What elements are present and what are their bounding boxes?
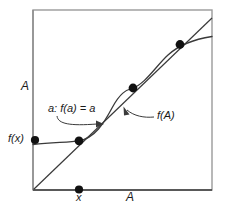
- f-of-A-curve: [33, 37, 212, 145]
- figure-container: A A x f(x) a: f(a) = a f(A): [0, 0, 230, 215]
- f-of-A-annotation-label: f(A): [157, 110, 175, 121]
- point-f-of-x: [31, 136, 39, 144]
- y-axis-label: A: [21, 80, 29, 92]
- point-fixed-middle: [129, 84, 138, 93]
- point-fixed-upper: [176, 40, 185, 49]
- x-point-label: x: [76, 192, 82, 203]
- diagram-canvas: [0, 0, 230, 215]
- f-of-A-leader-line: [127, 110, 154, 117]
- point-fixed-lower: [75, 136, 84, 145]
- x-axis-label: A: [126, 191, 134, 203]
- fixed-point-annotation-label: a: f(a) = a: [48, 103, 95, 114]
- fixed-point-leader-line: [57, 116, 97, 125]
- f-of-x-label: f(x): [8, 133, 24, 144]
- plot-box: [33, 10, 212, 190]
